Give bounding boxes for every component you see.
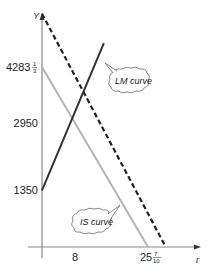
y-tick-label: 1350 [14,184,38,196]
y-tick-fraction-denominator: 3 [33,68,37,74]
is-curve-label: IS curve [80,217,113,227]
y-tick-fraction-numerator: 1 [33,61,37,67]
y-tick-label: 2950 [14,117,38,129]
is-lm-chart: Y r 42831329501350825710 LM curve IS cur… [0,0,209,276]
lm-curve-line [42,43,104,190]
is-curve-callout: IS curve [72,205,120,234]
x-axis-label: r [196,255,200,265]
x-axis-arrow-icon [194,245,201,250]
y-axis-label: Y [33,11,40,21]
lm-curve-label: LM curve [115,76,152,86]
lm-curve-callout: LM curve [105,63,152,93]
x-tick-fraction-numerator: 7 [154,251,158,257]
x-tick-label: 8 [72,251,78,263]
x-tick-label: 25 [140,251,152,263]
x-tick-fraction-denominator: 10 [153,258,160,264]
y-tick-label: 4283 [6,61,30,73]
lm-callout-pointer [105,63,117,73]
